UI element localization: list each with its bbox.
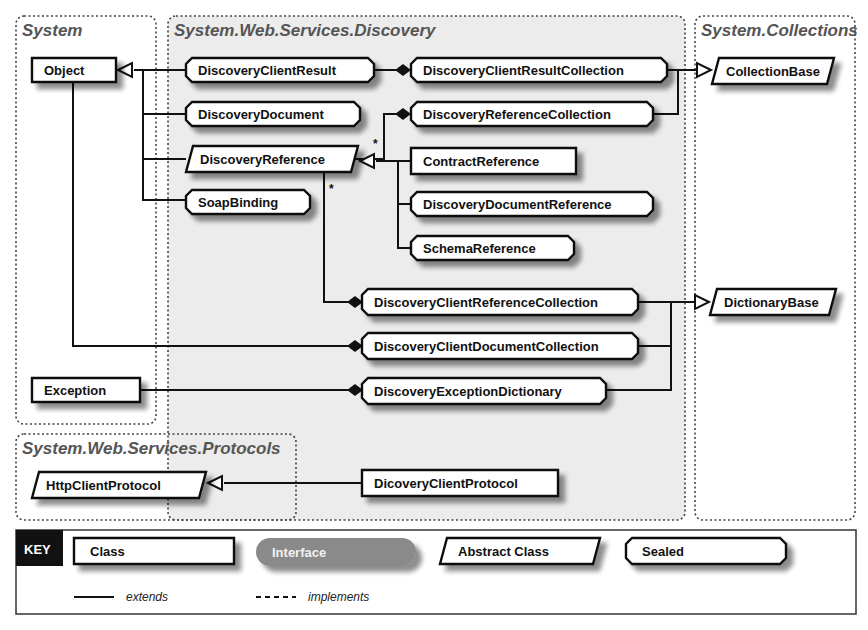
key-line-label: implements [308,590,369,604]
key-item-sealed: Sealed [626,538,786,564]
package-collections: System.Collections [695,16,858,520]
class-node-collection-base[interactable]: CollectionBase [712,58,834,84]
class-name: DiscoveryExceptionDictionary [374,384,563,399]
class-node-http-client-protocol[interactable]: HttpClientProtocol [32,472,206,498]
class-name: DiscoveryClientResultCollection [423,63,624,78]
class-name: SchemaReference [423,241,536,256]
class-name: ContractReference [423,154,539,169]
class-name: DicoveryClientProtocol [374,476,518,491]
key-item-interface: Interface [256,538,416,566]
class-name: DiscoveryReference [200,152,325,167]
class-name: DiscoveryClientReferenceCollection [374,295,598,310]
key-item-label: Sealed [642,544,684,559]
class-node-discovery-reference-collection[interactable]: DiscoveryReferenceCollection [411,102,653,126]
package-title: System.Web.Services.Discovery [174,21,437,40]
inheritance-arrow-icon [697,63,711,77]
class-name: SoapBinding [198,195,278,210]
class-node-contract-reference[interactable]: ContractReference [411,148,576,174]
class-node-soap-binding[interactable]: SoapBinding [186,190,310,214]
class-name: DictionaryBase [724,295,819,310]
package-title: System.Web.Services.Protocols [22,439,281,458]
class-node-dictionary-base[interactable]: DictionaryBase [710,289,836,315]
key-item-label: Class [90,544,125,559]
class-node-discovery-document-reference[interactable]: DiscoveryDocumentReference [411,192,653,216]
class-node-discovery-client-result[interactable]: DiscoveryClientResult [186,58,374,82]
class-name: Exception [44,383,106,398]
inheritance-arrow-icon [695,295,709,309]
class-node-discovery-document[interactable]: DiscoveryDocument [186,102,360,126]
key-title: KEY [24,542,51,557]
class-node-discovery-client-document-collection[interactable]: DiscoveryClientDocumentCollection [362,333,638,359]
class-name: DiscoveryDocument [198,107,324,122]
class-name: DiscoveryDocumentReference [423,197,612,212]
class-name: DiscoveryClientDocumentCollection [374,339,599,354]
package-title: System [22,21,82,40]
class-node-discovery-client-result-collection[interactable]: DiscoveryClientResultCollection [411,58,667,82]
class-node-discovery-exception-dictionary[interactable]: DiscoveryExceptionDictionary [362,378,606,404]
class-node-discovery-reference[interactable]: DiscoveryReference [186,146,358,172]
class-name: CollectionBase [726,64,820,79]
class-name: DiscoveryReferenceCollection [423,107,611,122]
class-name: HttpClientProtocol [46,478,161,493]
package-border [695,16,855,520]
key-line-label: extends [126,590,168,604]
class-node-dicovery-client-protocol[interactable]: DicoveryClientProtocol [362,470,558,496]
class-node-exception[interactable]: Exception [32,378,140,402]
key-item-class: Class [74,538,234,564]
class-name: DiscoveryClientResult [198,63,337,78]
class-diagram: SystemSystem.Web.Services.DiscoverySyste… [0,0,868,630]
key-item-label: Abstract Class [458,544,549,559]
inheritance-arrow-icon [118,63,132,77]
multiplicity-label: * [373,137,378,151]
package-title: System.Collections [701,21,858,40]
class-node-object[interactable]: Object [32,58,116,82]
class-name: Object [44,63,85,78]
multiplicity-label: * [329,182,334,196]
key-item-label: Interface [272,545,326,560]
class-node-schema-reference[interactable]: SchemaReference [411,236,574,260]
class-node-discovery-client-reference-collection[interactable]: DiscoveryClientReferenceCollection [362,289,638,315]
key-item-abstract-class: Abstract Class [440,538,600,564]
key-legend: KEYClassInterfaceAbstract ClassSealedext… [16,530,856,614]
